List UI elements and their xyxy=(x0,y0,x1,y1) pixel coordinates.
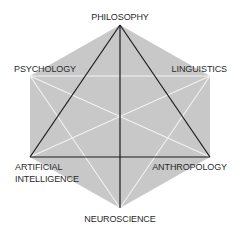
node-label-linguistics: LINGUISTICS xyxy=(172,64,228,74)
node-label-neuroscience: NEUROSCIENCE xyxy=(84,214,155,224)
cognitive-science-hexagon-diagram: PHILOSOPHY PSYCHOLOGY LINGUISTICS ARTIFI… xyxy=(0,0,240,230)
node-label-ai-line1: ARTIFICIAL xyxy=(15,162,62,172)
node-label-philosophy: PHILOSOPHY xyxy=(91,12,149,22)
node-label-psychology: PSYCHOLOGY xyxy=(14,64,76,74)
node-label-anthropology: ANTHROPOLOGY xyxy=(152,162,227,172)
node-label-ai-line2: INTELLIGENCE xyxy=(15,174,79,184)
